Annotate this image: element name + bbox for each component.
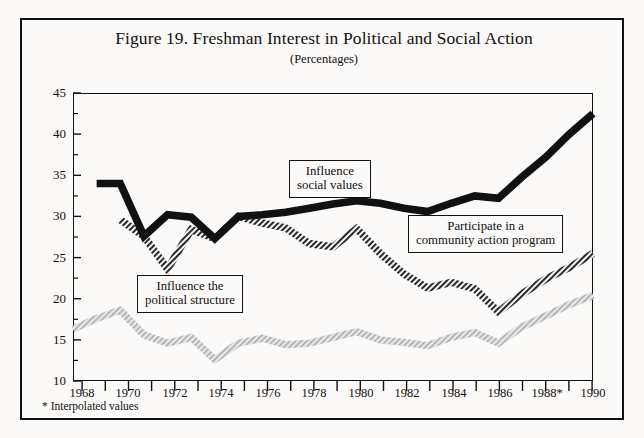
callout-community-action-line2: community action program <box>416 233 555 247</box>
y-tick-label-15: 15 <box>40 332 66 348</box>
y-tick-label-25: 25 <box>40 250 66 266</box>
x-tick-label-1980: 1980 <box>338 386 384 401</box>
y-tick-label-35: 35 <box>40 167 66 183</box>
y-tick-label-45: 45 <box>40 85 66 101</box>
callout-influence-social-values: Influence social values <box>289 160 371 198</box>
y-tick-label-20: 20 <box>40 291 66 307</box>
x-tick-label-1988: 1988* <box>524 386 570 401</box>
x-tick-label-1984: 1984 <box>431 386 477 401</box>
figure-title: Figure 19. Freshman Interest in Politica… <box>22 28 626 49</box>
callout-social-values-line2: social values <box>297 178 363 192</box>
figure-subtitle: (Percentages) <box>22 52 626 67</box>
figure-page: Figure 19. Freshman Interest in Politica… <box>0 0 644 438</box>
callout-participate-community-action: Participate in a community action progra… <box>408 215 563 253</box>
callout-influence-political-structure: Influence the political structure <box>137 275 243 313</box>
callout-social-values-line1: Influence <box>297 164 363 178</box>
callout-political-structure-line2: political structure <box>145 293 235 307</box>
x-tick-label-1990: 1990 <box>570 386 616 401</box>
callout-political-structure-line1: Influence the <box>145 279 235 293</box>
y-tick-label-40: 40 <box>40 126 66 142</box>
y-tick-label-30: 30 <box>40 208 66 224</box>
footnote-interpolated-values: * Interpolated values <box>42 400 138 412</box>
callout-community-action-line1: Participate in a <box>416 219 555 233</box>
